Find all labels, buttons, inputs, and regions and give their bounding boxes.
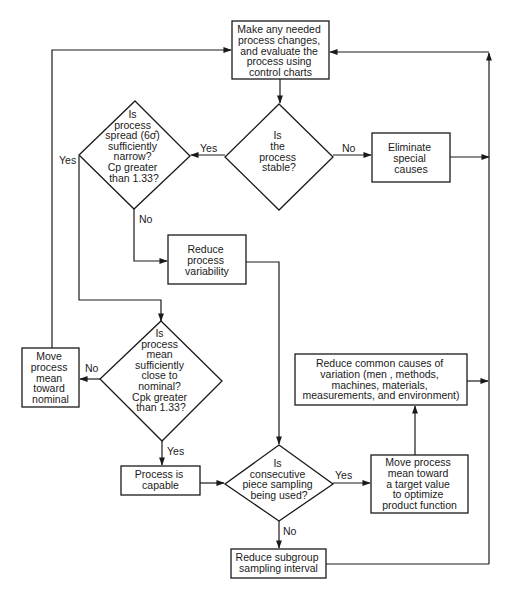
flowchart: Make any needed process changes, and eva… <box>0 0 509 594</box>
label-stable-no: No <box>342 142 356 154</box>
svg-text:Eliminate special: Eliminate special causes <box>388 141 434 175</box>
node-process-capable: Process is capable <box>121 466 200 495</box>
node-move-nominal: Move process mean toward nominal <box>22 348 79 407</box>
node-evaluate-text: Make any needed process changes, and eva… <box>237 23 323 78</box>
svg-text:Is process mean: Is process mean sufficiently close to no… <box>132 327 190 413</box>
svg-text:Move process mean toward: Move process mean toward a target value … <box>382 456 457 511</box>
svg-text:Move process mean: Move process mean toward nominal <box>31 350 71 405</box>
label-consecutive-yes: Yes <box>335 469 352 481</box>
node-stable-decision: Is the process stable? <box>225 104 333 210</box>
node-mean-close-decision: Is process mean sufficiently close to no… <box>100 321 222 441</box>
edge-variability-to-consecutive <box>246 262 279 444</box>
label-stable-yes: Yes <box>200 142 217 154</box>
svg-text:Reduce process var: Reduce process variability <box>185 243 230 277</box>
node-reduce-variability: Reduce process variability <box>168 235 246 284</box>
label-spread-no: No <box>139 213 153 225</box>
node-common-causes: Reduce common causes of variation (men ,… <box>295 354 467 405</box>
node-move-target: Move process mean toward a target value … <box>371 455 468 513</box>
node-evaluate: Make any needed process changes, and eva… <box>232 21 329 79</box>
svg-text:Reduce subgroup sampling: Reduce subgroup sampling interval <box>236 551 322 574</box>
node-consecutive-decision: Is consecutive piece sampling being used… <box>225 445 333 521</box>
node-reduce-subgroup: Reduce subgroup sampling interval <box>231 549 326 578</box>
node-spread-decision: Is process spread (6σ̂) sufficiently nar… <box>79 101 190 209</box>
label-spread-yes: Yes <box>59 154 76 166</box>
label-mean-no: No <box>85 362 99 374</box>
svg-text:Process is capable: Process is capable <box>135 468 186 491</box>
label-consecutive-no: No <box>283 525 297 537</box>
label-mean-yes: Yes <box>167 445 184 457</box>
node-eliminate: Eliminate special causes <box>372 133 450 182</box>
svg-text:Reduce common causes of: Reduce common causes of variation (men ,… <box>303 357 460 401</box>
